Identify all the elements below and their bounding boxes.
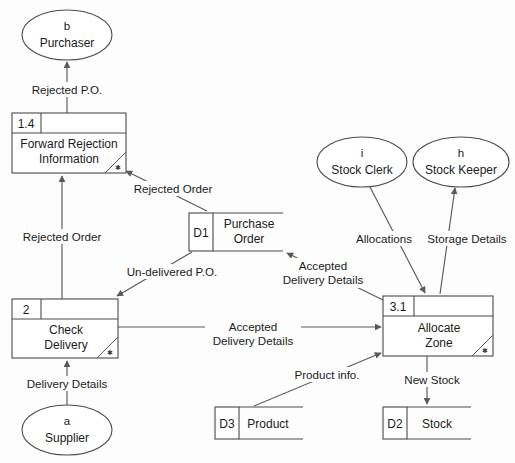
external-entity-purchaser[interactable]: b Purchaser [22, 10, 112, 60]
dfd-canvas: b Purchaser a Supplier i Stock Clerk h S… [0, 0, 515, 463]
entity-id-label: b [64, 20, 70, 32]
store-id-label: D1 [193, 226, 209, 240]
store-id-label: D3 [219, 417, 235, 431]
process-2[interactable]: 2 Check Delivery ✱ [12, 299, 118, 358]
store-name-line1: Purchase [224, 217, 275, 231]
entity-name-label: Purchaser [40, 36, 95, 50]
entity-name-label: Stock Clerk [331, 163, 393, 177]
store-name-line2: Order [234, 232, 265, 246]
data-store-d1[interactable]: D1 Purchase Order [189, 213, 283, 251]
process-3-1[interactable]: 3.1 Allocate Zone ✱ [383, 296, 493, 356]
flow-label-rejected-order-store: Rejected Order [120, 181, 226, 196]
flow-label-rejected-po: Rejected P.O. [18, 82, 116, 97]
flow-label-text: Un-delivered P.O. [127, 265, 218, 278]
flow-label-text: New Stock [404, 373, 460, 386]
flow-label-delivery-details: Delivery Details [12, 376, 122, 391]
flow-label-text-line2: Delivery Details [213, 334, 294, 347]
entity-id-label: a [64, 415, 71, 427]
flow-label-text: Allocations [356, 232, 412, 245]
entity-ellipse [413, 137, 509, 187]
flow-label-text: Rejected Order [134, 182, 213, 195]
process-name-line2: Information [39, 152, 99, 166]
process-asterisk-icon: ✱ [482, 347, 488, 354]
flow-label-text: Storage Details [427, 232, 506, 245]
process-name-line1: Allocate [418, 321, 461, 335]
entity-ellipse [22, 405, 112, 455]
external-entity-supplier[interactable]: a Supplier [22, 405, 112, 455]
entity-name-label: Stock Keeper [425, 163, 497, 177]
flow-label-allocations: Allocations [348, 231, 426, 246]
flow-label-accepted-delivery-details-store: Accepted Delivery Details [268, 258, 378, 288]
flow-label-undelivered-po: Un-delivered P.O. [113, 264, 231, 279]
entity-ellipse [317, 137, 407, 187]
flow-label-text-line2: Delivery Details [283, 273, 364, 286]
flow-label-rejected-order-vertical: Rejected Order [9, 229, 115, 244]
flow-label-new-stock: New Stock [396, 372, 470, 387]
entity-ellipse [22, 10, 112, 60]
entity-id-label: h [458, 147, 464, 159]
process-asterisk-icon: ✱ [115, 164, 121, 171]
data-store-d3[interactable]: D3 Product [215, 407, 303, 439]
flow-label-text: Rejected P.O. [32, 83, 103, 96]
flow-label-accepted-delivery-details-main: Accepted Delivery Details [205, 318, 301, 347]
store-name-line1: Product [247, 417, 289, 431]
process-1-4[interactable]: 1.4 Forward Rejection Information ✱ [12, 113, 126, 173]
flow-label-storage-details: Storage Details [424, 231, 515, 246]
store-id-label: D2 [387, 417, 403, 431]
flow-label-text: Rejected Order [23, 230, 102, 243]
external-entity-stock-keeper[interactable]: h Stock Keeper [413, 137, 509, 187]
process-asterisk-icon: ✱ [107, 349, 113, 356]
process-number-label: 2 [23, 303, 30, 317]
process-number-label: 3.1 [390, 300, 407, 314]
flow-label-text-line1: Accepted [229, 320, 277, 333]
store-name-line1: Stock [422, 417, 453, 431]
process-number-label: 1.4 [18, 117, 35, 131]
flow-label-text: Product info. [294, 368, 359, 381]
process-name-line2: Zone [425, 336, 453, 350]
process-name-line2: Delivery [44, 338, 87, 352]
entity-name-label: Supplier [45, 431, 89, 445]
external-entity-stock-clerk[interactable]: i Stock Clerk [317, 137, 407, 187]
data-store-d2[interactable]: D2 Stock [383, 407, 471, 439]
flow-label-text-line1: Accepted [299, 259, 347, 272]
flow-label-product-info: Product info. [285, 367, 371, 382]
dfd-svg: b Purchaser a Supplier i Stock Clerk h S… [0, 0, 515, 463]
process-name-line1: Check [49, 323, 84, 337]
process-name-line1: Forward Rejection [20, 137, 117, 151]
entity-id-label: i [361, 147, 364, 159]
flow-label-text: Delivery Details [27, 377, 108, 390]
